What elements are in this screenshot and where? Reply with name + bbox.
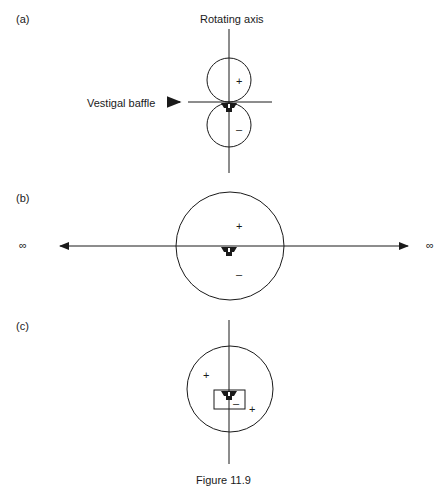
infinity-left: ∞ <box>19 240 27 251</box>
panel-c-boxed <box>187 320 273 464</box>
rotating-axis-label: Rotating axis <box>200 13 264 25</box>
panel-b-omni <box>60 192 408 300</box>
speaker-icon <box>221 103 237 112</box>
plus-sign: + <box>236 76 242 87</box>
minus-sign: – <box>233 398 239 409</box>
figure-caption: Figure 11.9 <box>196 474 251 486</box>
vestigal-baffle-label: Vestigal baffle <box>87 97 155 109</box>
panel-a-dipole <box>168 29 272 173</box>
plus-sign: + <box>249 404 255 415</box>
plus-sign: + <box>236 221 242 232</box>
minus-sign: – <box>236 269 242 280</box>
panel-b-label: (b) <box>16 192 29 204</box>
speaker-icon <box>221 247 237 256</box>
boxed-pattern-circle <box>187 346 273 432</box>
panel-a-label: (a) <box>16 13 29 25</box>
infinity-right: ∞ <box>426 240 434 251</box>
plus-sign: + <box>203 370 209 381</box>
minus-sign: – <box>236 124 242 135</box>
panel-c-label: (c) <box>16 320 29 332</box>
